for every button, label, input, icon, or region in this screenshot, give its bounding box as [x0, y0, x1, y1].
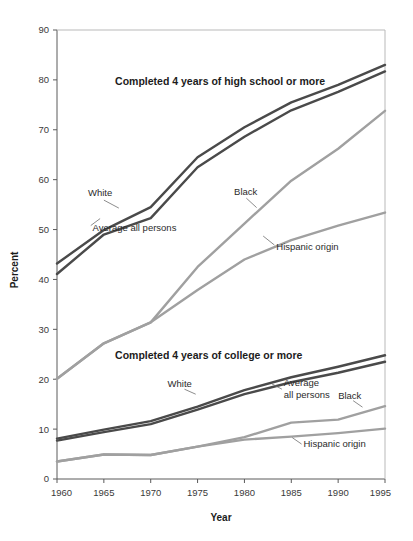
y-tick-label: 60: [38, 174, 49, 185]
axes-group: [53, 30, 385, 483]
leader-line-high_school-hispanic-origin: [263, 236, 274, 245]
plot-frame: [57, 30, 385, 479]
y-axis-title: Percent: [9, 251, 20, 288]
series-label-college-black: Black: [338, 390, 361, 401]
education-attainment-chart: 0102030405060708090 19601965197019751980…: [0, 0, 413, 541]
x-tick-label: 1995: [370, 487, 391, 498]
series-line-college-white: [57, 355, 385, 438]
label-leader-lines: [91, 198, 363, 444]
x-tick-label: 1970: [140, 487, 161, 498]
x-tick-label: 1960: [51, 487, 72, 498]
x-tick-label: 1975: [187, 487, 208, 498]
y-tick-label: 0: [44, 473, 49, 484]
series-label-high_school-hispanic-origin: Hispanic origin: [276, 241, 338, 252]
series-label-high_school-white: White: [88, 187, 112, 198]
y-tick-labels: 0102030405060708090: [38, 24, 49, 484]
series-lines: [57, 65, 385, 462]
series-label-college-average-all-persons: Averageall persons: [284, 377, 330, 400]
x-tick-label: 1990: [328, 487, 349, 498]
series-label-college-hispanic-origin: Hispanic origin: [303, 438, 365, 449]
y-tick-label: 70: [38, 124, 49, 135]
group-titles: Completed 4 years of high school or more…: [115, 75, 325, 361]
axis-lines: [57, 30, 385, 479]
group-title-high_school: Completed 4 years of high school or more: [115, 75, 325, 87]
y-tick-label: 80: [38, 74, 49, 85]
y-tick-label: 40: [38, 274, 49, 285]
x-tick-label: 1980: [234, 487, 255, 498]
series-labels: WhiteAverage all personsBlackHispanic or…: [88, 186, 366, 449]
leader-line-high_school-black: [246, 198, 256, 207]
y-tick-label: 50: [38, 224, 49, 235]
y-tick-label: 10: [38, 424, 49, 435]
series-label-college-white: White: [168, 378, 192, 389]
leader-line-college-white: [184, 389, 195, 394]
leader-line-college-black: [353, 401, 362, 407]
leader-line-high_school-white: [104, 200, 119, 208]
y-tick-label: 20: [38, 374, 49, 385]
chart-canvas: 0102030405060708090 19601965197019751980…: [0, 0, 413, 541]
y-tick-label: 30: [38, 324, 49, 335]
x-tick-label: 1985: [281, 487, 302, 498]
y-tick-label: 90: [38, 24, 49, 35]
x-axis-title: Year: [210, 512, 231, 523]
leader-line-college-hispanic-origin: [292, 438, 301, 444]
x-tick-label: 1965: [93, 487, 114, 498]
x-tick-labels: 19601965197019751980198519901995: [51, 487, 391, 498]
group-title-college: Completed 4 years of college or more: [115, 349, 302, 361]
series-label-high_school-average-all-persons: Average all persons: [93, 222, 177, 233]
series-label-high_school-black: Black: [234, 186, 257, 197]
